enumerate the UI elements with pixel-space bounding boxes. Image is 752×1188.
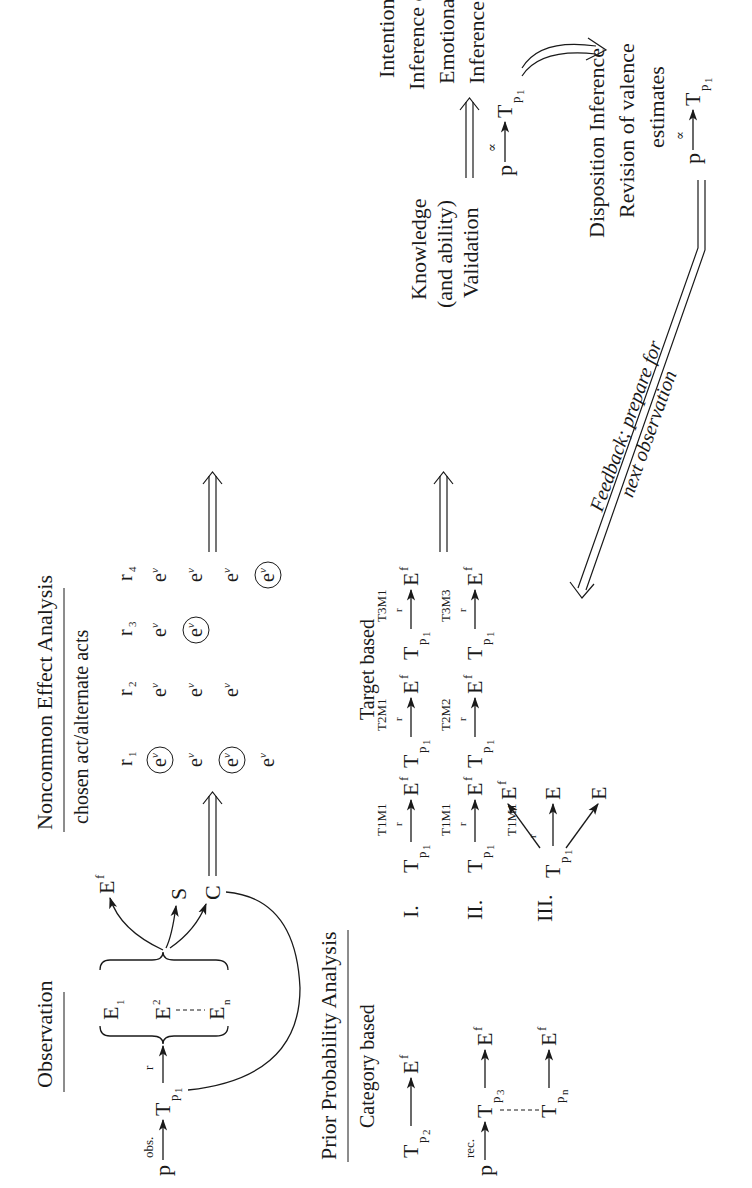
svg-text:f: f (396, 1054, 411, 1059)
category-p: p (472, 1165, 497, 1176)
svg-text:v: v (256, 753, 268, 758)
svg-text:2: 2 (150, 1000, 162, 1006)
svg-text:1: 1 (484, 632, 496, 638)
category-row-2: p rec. T p 3 E f (462, 1026, 540, 1176)
feedback-loop-curve (188, 892, 300, 1090)
svg-text:T: T (398, 1144, 423, 1158)
svg-text:v: v (256, 568, 268, 573)
column-r3: r 3 e v e v (114, 617, 209, 643)
svg-text:1: 1 (420, 845, 432, 851)
svg-text:Inference or: Inference or (404, 0, 429, 90)
svg-text:f: f (494, 780, 509, 785)
disposition-inference-block: Disposition Inference Revision of valenc… (584, 43, 714, 238)
svg-text:1: 1 (126, 752, 138, 758)
svg-text:E: E (540, 787, 565, 800)
svg-text:estimates: estimates (644, 66, 669, 148)
svg-text:r: r (114, 629, 136, 636)
svg-text:e: e (184, 573, 206, 582)
svg-text:f: f (92, 874, 107, 879)
svg-text:n: n (220, 999, 232, 1005)
svg-text:T2M2: T2M2 (438, 699, 453, 732)
svg-text:T: T (398, 754, 423, 768)
svg-text:e: e (148, 758, 170, 767)
effect-En: E (204, 1007, 229, 1020)
to-S-arrow (166, 906, 176, 948)
svg-text:r: r (456, 822, 468, 826)
svg-text:f: f (460, 776, 475, 781)
svg-text:∝: ∝ (484, 143, 499, 152)
obs-label: obs. (141, 1137, 156, 1158)
svg-text:e: e (220, 758, 242, 767)
svg-text:e: e (184, 688, 206, 697)
svg-text:Revision of valence: Revision of valence (614, 43, 639, 218)
output-C: C (200, 885, 225, 900)
target-row-III: III. T p1 T1M1 r Ef E E (494, 780, 611, 922)
svg-text:Intention: Intention (374, 0, 399, 78)
intention-formula: p ∝ T p 1 (484, 90, 526, 177)
double-arrow-C-to-noncommon (203, 792, 222, 876)
svg-text:E: E (462, 681, 487, 694)
observation-T-subsub: 1 (172, 1088, 184, 1094)
svg-text:II.: II. (462, 900, 487, 920)
svg-text:r: r (392, 717, 404, 721)
column-r1: r 1 e v e v e v e v (114, 747, 278, 773)
output-E: E (94, 881, 119, 894)
svg-text:p: p (414, 639, 429, 646)
svg-text:v: v (184, 683, 196, 688)
observation-T: T (150, 1102, 175, 1116)
svg-text:r: r (114, 689, 136, 696)
svg-text:T3M1: T3M1 (374, 590, 389, 623)
svg-text:e: e (220, 688, 242, 697)
svg-text:f: f (460, 566, 475, 571)
target-row-I: I. T p1 T1M1 r Ef T p1 T2M1 r Ef T p1 T3… (374, 566, 432, 918)
svg-text:f: f (396, 566, 411, 571)
svg-text:e: e (184, 628, 206, 637)
svg-text:r: r (114, 574, 136, 581)
svg-text:E: E (398, 783, 423, 796)
svg-text:v: v (220, 568, 232, 573)
svg-text:p: p (414, 1137, 429, 1144)
disposition-formula: p ∝ T p 1 (672, 78, 714, 165)
double-arrow-knowledge-to-intention (460, 98, 479, 178)
svg-text:r: r (114, 759, 136, 766)
svg-text:E: E (586, 787, 611, 800)
svg-text:E: E (462, 573, 487, 586)
svg-text:T: T (536, 1104, 561, 1118)
svg-text:Disposition Inference: Disposition Inference (584, 48, 609, 238)
feedback-arrow: Feedback; prepare for next observation (570, 180, 705, 598)
svg-text:p: p (508, 97, 523, 104)
svg-text:2: 2 (420, 1130, 432, 1136)
svg-text:T1M1: T1M1 (374, 804, 389, 837)
svg-text:E: E (398, 681, 423, 694)
column-r4: r 4 e v e v e v e v (114, 562, 281, 588)
svg-text:Inference: Inference (464, 1, 489, 84)
svg-text:v: v (184, 753, 196, 758)
svg-text:T: T (398, 859, 423, 873)
svg-text:v: v (220, 683, 232, 688)
left-brace (100, 1026, 228, 1044)
svg-text:T3M3: T3M3 (438, 590, 453, 623)
svg-text:Emotional: Emotional (434, 0, 459, 84)
svg-text:E: E (496, 787, 521, 800)
rec-label: rec. (462, 1139, 477, 1158)
svg-text:1: 1 (484, 845, 496, 851)
svg-text:f: f (396, 674, 411, 679)
svg-text:3: 3 (126, 621, 138, 627)
svg-text:f: f (396, 776, 411, 781)
svg-text:E: E (536, 1033, 561, 1046)
svg-text:1: 1 (420, 740, 432, 746)
output-S: S (166, 888, 191, 900)
svg-text:v: v (148, 623, 160, 628)
svg-text:4: 4 (126, 566, 138, 572)
svg-text:I.: I. (398, 905, 423, 918)
svg-text:e: e (148, 688, 170, 697)
svg-text:r: r (392, 822, 404, 826)
svg-text:2: 2 (126, 682, 138, 688)
prior-probability-section: Prior Probability Analysis Category base… (316, 472, 611, 1176)
svg-text:III.: III. (532, 895, 557, 922)
svg-text:n: n (558, 1089, 570, 1095)
svg-text:r: r (392, 608, 404, 612)
category-based-title: Category based (356, 1004, 379, 1128)
svg-text:T: T (462, 754, 487, 768)
category-row-1: T p 2 E f (396, 1054, 432, 1158)
